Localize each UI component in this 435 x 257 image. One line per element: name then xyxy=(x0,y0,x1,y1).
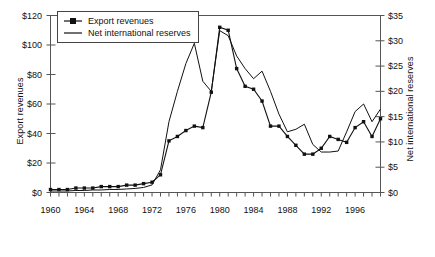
data-point-marker xyxy=(243,85,246,88)
data-point-marker xyxy=(286,135,289,138)
legend-item-export-revenues: Export revenues xyxy=(63,15,191,27)
data-point-marker xyxy=(328,135,331,138)
data-point-marker xyxy=(277,124,280,127)
data-point-marker xyxy=(294,144,297,147)
data-point-marker xyxy=(142,182,145,185)
data-point-marker xyxy=(150,180,153,183)
data-point-marker xyxy=(362,120,365,123)
data-point-marker xyxy=(159,173,162,176)
data-point-marker xyxy=(133,183,136,186)
series-line-net-international-reserves xyxy=(51,31,381,191)
data-point-marker xyxy=(226,29,229,32)
data-point-marker xyxy=(193,124,196,127)
legend-item-net-international-reserves: Net international reserves xyxy=(63,27,191,39)
data-point-marker xyxy=(303,152,306,155)
data-point-marker xyxy=(116,185,119,188)
data-point-marker xyxy=(252,88,255,91)
data-point-marker xyxy=(125,183,128,186)
legend-swatch-square-line-icon xyxy=(63,16,83,26)
dual-axis-line-chart: Export revenues Net international reserv… xyxy=(0,0,435,257)
data-point-marker xyxy=(167,139,170,142)
data-point-marker xyxy=(311,152,314,155)
data-point-marker xyxy=(336,138,339,141)
data-point-marker xyxy=(210,91,213,94)
data-point-marker xyxy=(83,186,86,189)
data-point-marker xyxy=(260,99,263,102)
data-point-marker xyxy=(201,126,204,129)
data-point-marker xyxy=(320,147,323,150)
data-point-marker xyxy=(345,141,348,144)
chart-legend: Export revenues Net international reserv… xyxy=(57,11,199,43)
data-point-marker xyxy=(184,129,187,132)
series-line-export-revenues xyxy=(51,27,381,189)
data-point-marker xyxy=(379,117,382,120)
data-point-marker xyxy=(269,124,272,127)
data-point-marker xyxy=(100,185,103,188)
legend-label-net-international-reserves: Net international reserves xyxy=(88,28,191,38)
data-point-marker xyxy=(235,67,238,70)
data-point-marker xyxy=(108,185,111,188)
data-point-marker xyxy=(176,135,179,138)
data-point-marker xyxy=(74,186,77,189)
legend-label-export-revenues: Export revenues xyxy=(88,16,154,26)
data-point-marker xyxy=(218,26,221,29)
data-point-marker xyxy=(66,188,69,191)
legend-swatch-line-icon xyxy=(63,28,83,38)
data-point-marker xyxy=(353,126,356,129)
data-point-marker xyxy=(91,186,94,189)
data-point-marker xyxy=(57,188,60,191)
data-point-marker xyxy=(49,188,52,191)
data-point-marker xyxy=(370,135,373,138)
series-markers-export-revenues xyxy=(49,26,382,192)
